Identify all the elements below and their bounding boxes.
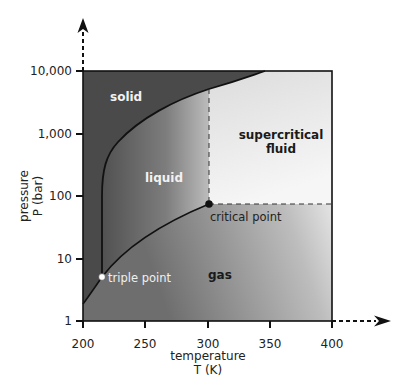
supercritical-label-line1: supercritical: [239, 128, 324, 142]
x-axis: 200 250 300 350 400 temperature T (K): [72, 316, 391, 378]
x-tick-200: 200: [72, 337, 95, 351]
x-tick-400: 400: [321, 337, 344, 351]
y-axis-title: pressure: [17, 170, 31, 222]
x-tick-250: 250: [134, 337, 157, 351]
x-axis-title: temperature: [170, 349, 245, 363]
liquid-label: liquid: [145, 171, 183, 185]
y-tick-10: 10: [57, 252, 72, 266]
y-axis-arrow-icon: [78, 18, 89, 33]
plot-area: solid liquid supercritical fluid gas tri…: [83, 71, 332, 321]
y-tick-1: 1: [64, 314, 72, 328]
y-tick-100: 100: [49, 189, 72, 203]
phase-diagram-chart: solid liquid supercritical fluid gas tri…: [0, 0, 406, 390]
critical-point-marker: [205, 200, 213, 208]
solid-label: solid: [110, 90, 142, 104]
critical-point-label: critical point: [210, 210, 282, 224]
x-axis-arrow-icon: [374, 316, 391, 327]
x-tick-350: 350: [259, 337, 282, 351]
y-axis: 10,000 1,000 100 10 1 pressure P (bar): [17, 18, 89, 328]
y-tick-1000: 1,000: [38, 127, 72, 141]
gas-label: gas: [208, 268, 232, 282]
supercritical-label-line2: fluid: [266, 142, 296, 156]
y-axis-unit: P (bar): [31, 176, 45, 216]
y-tick-10000: 10,000: [30, 64, 72, 78]
triple-point-label: triple point: [108, 271, 171, 285]
triple-point-marker: [99, 274, 106, 281]
x-axis-unit: T (K): [193, 363, 222, 377]
